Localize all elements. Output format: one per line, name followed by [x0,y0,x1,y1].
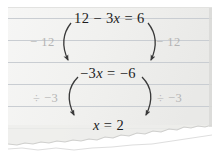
arrow-right-divide-neg3 [142,77,151,115]
equation-step-3-solution: x = 2 [93,117,124,134]
arrow-left-subtract-12 [64,23,71,60]
worked-example-content: 12 − 3x = 6 − 12 − 12 −3x = −6 ÷ −3 ÷ −3… [8,7,212,155]
arrow-left-divide-neg3 [69,77,78,115]
arrow-right-subtract-12 [148,23,155,60]
operation-right-divide-neg3: ÷ −3 [157,91,182,106]
operation-right-subtract-12: − 12 [156,35,181,50]
operation-left-divide-neg3: ÷ −3 [33,91,58,106]
worked-example-figure: 12 − 3x = 6 − 12 − 12 −3x = −6 ÷ −3 ÷ −3… [0,0,219,168]
equation-step-1: 12 − 3x = 6 [74,10,145,27]
equation-step-2: −3x = −6 [80,65,136,82]
operation-left-subtract-12: − 12 [30,35,55,50]
